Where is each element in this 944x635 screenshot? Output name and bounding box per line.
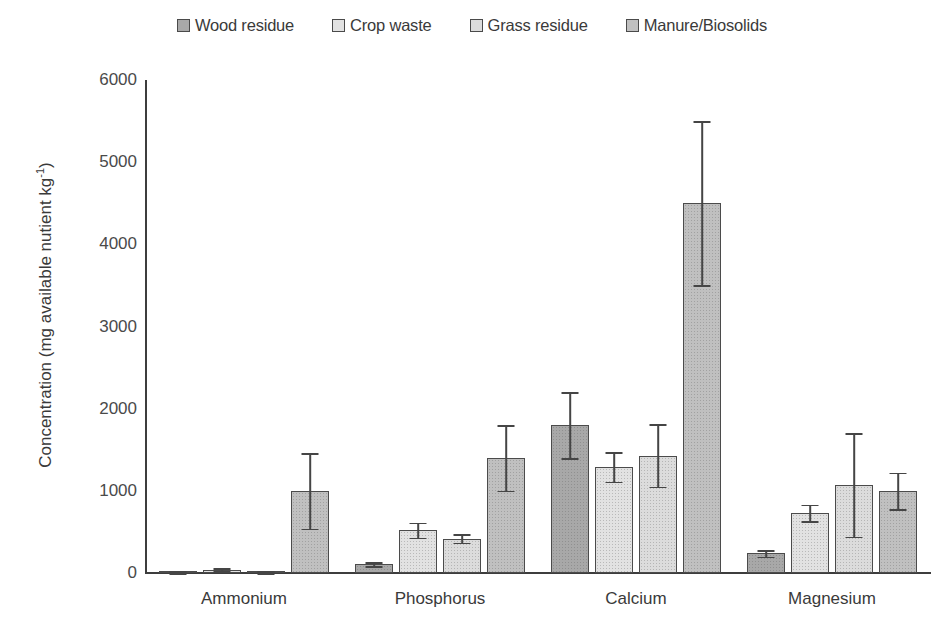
error-bar-line bbox=[569, 392, 571, 458]
legend-entry[interactable]: Crop waste bbox=[332, 16, 431, 35]
y-axis-tick-label: 3000 bbox=[99, 317, 137, 337]
legend-swatch-grass-residue bbox=[470, 19, 483, 32]
error-bar-cap-bottom bbox=[650, 487, 667, 489]
legend-entry[interactable]: Wood residue bbox=[177, 16, 294, 35]
error-bar-cap-top bbox=[694, 121, 711, 123]
legend-swatch-wood-residue bbox=[177, 19, 190, 32]
error-bar-cap-top bbox=[366, 562, 383, 564]
error-bar-cap-bottom bbox=[846, 537, 863, 539]
legend-swatch-manure-biosolids bbox=[626, 19, 639, 32]
legend-label: Wood residue bbox=[195, 16, 294, 35]
error-bar-line bbox=[309, 453, 311, 529]
bar-group: Ammonium bbox=[146, 80, 342, 573]
bar-group: Phosphorus bbox=[342, 80, 538, 573]
error-bar-cap-top bbox=[454, 534, 471, 536]
bar-chart-figure: Wood residueCrop wasteGrass residueManur… bbox=[0, 0, 944, 635]
error-bar-line bbox=[897, 473, 899, 509]
error-bar-cap-bottom bbox=[302, 529, 319, 531]
error-bar-line bbox=[657, 424, 659, 486]
error-bar-cap-bottom bbox=[694, 285, 711, 287]
y-axis-title: Concentration (mg available nutient kg-1… bbox=[20, 55, 60, 575]
error-bar-cap-top bbox=[410, 523, 427, 525]
y-axis-tick-label: 1000 bbox=[99, 481, 137, 501]
error-bar-cap-bottom bbox=[454, 543, 471, 545]
plot-area: 0100020003000400050006000 AmmoniumPhosph… bbox=[146, 80, 930, 573]
error-bar-line bbox=[701, 121, 703, 285]
error-bar-cap-top bbox=[802, 505, 819, 507]
error-bar-cap-bottom bbox=[562, 458, 579, 460]
legend-label: Grass residue bbox=[488, 16, 588, 35]
bar-slot bbox=[244, 80, 288, 573]
error-bar-cap-bottom bbox=[606, 482, 623, 484]
error-bar-cap-bottom bbox=[214, 571, 231, 573]
bar-slot bbox=[396, 80, 440, 573]
error-bar-cap-top bbox=[562, 392, 579, 394]
y-axis-tick-label: 2000 bbox=[99, 399, 137, 419]
y-axis-tick-label: 5000 bbox=[99, 152, 137, 172]
bar-slot bbox=[744, 80, 788, 573]
error-bar-cap-bottom bbox=[410, 538, 427, 540]
error-bar-cap-bottom bbox=[498, 491, 515, 493]
x-axis-category-label: Magnesium bbox=[734, 589, 930, 609]
error-bar-cap-top bbox=[498, 425, 515, 427]
x-axis-category-label: Calcium bbox=[538, 589, 734, 609]
error-bar-line bbox=[613, 452, 615, 482]
error-bar-cap-bottom bbox=[802, 521, 819, 523]
bar-slot bbox=[288, 80, 332, 573]
legend-entry[interactable]: Manure/Biosolids bbox=[626, 16, 767, 35]
bar-slot bbox=[440, 80, 484, 573]
bar-slot bbox=[200, 80, 244, 573]
error-bar-cap-top bbox=[758, 550, 775, 552]
bar-slot bbox=[636, 80, 680, 573]
error-bar-cap-top bbox=[214, 568, 231, 570]
legend-entry[interactable]: Grass residue bbox=[470, 16, 588, 35]
error-bar-line bbox=[853, 433, 855, 537]
y-axis-title-tail: ) bbox=[36, 162, 55, 168]
error-bar-cap-top bbox=[302, 453, 319, 455]
error-bar-cap-top bbox=[890, 473, 907, 475]
error-bar-cap-bottom bbox=[258, 573, 275, 575]
y-axis-title-exponent: -1 bbox=[34, 168, 46, 178]
y-axis-title-text: Concentration (mg available nutient kg bbox=[36, 178, 55, 468]
x-axis-category-label: Phosphorus bbox=[342, 589, 538, 609]
bar-slot bbox=[592, 80, 636, 573]
x-axis-category-label: Ammonium bbox=[146, 589, 342, 609]
error-bar-cap-bottom bbox=[366, 566, 383, 568]
y-axis-tick-label: 0 bbox=[128, 563, 137, 583]
error-bar-cap-bottom bbox=[890, 509, 907, 511]
bar-slot bbox=[548, 80, 592, 573]
error-bar-cap-bottom bbox=[758, 557, 775, 559]
chart-legend: Wood residueCrop wasteGrass residueManur… bbox=[0, 16, 944, 35]
bar-group: Calcium bbox=[538, 80, 734, 573]
y-axis-tick-label: 4000 bbox=[99, 234, 137, 254]
bar-slot bbox=[680, 80, 724, 573]
legend-swatch-crop-waste bbox=[332, 19, 345, 32]
y-axis-tick-label: 6000 bbox=[99, 70, 137, 90]
bar-slot bbox=[832, 80, 876, 573]
bar-slot bbox=[156, 80, 200, 573]
error-bar-cap-bottom bbox=[170, 573, 187, 575]
bar-slot bbox=[352, 80, 396, 573]
error-bar-line bbox=[809, 505, 811, 521]
error-bar-cap-top bbox=[650, 424, 667, 426]
error-bar-line bbox=[505, 425, 507, 491]
bar-group: Magnesium bbox=[734, 80, 930, 573]
legend-label: Crop waste bbox=[350, 16, 431, 35]
bar-slot bbox=[788, 80, 832, 573]
error-bar-cap-top bbox=[606, 452, 623, 454]
bar-slot bbox=[876, 80, 920, 573]
legend-label: Manure/Biosolids bbox=[644, 16, 767, 35]
error-bar-cap-top bbox=[846, 433, 863, 435]
bar-slot bbox=[484, 80, 528, 573]
error-bar-line bbox=[417, 523, 419, 538]
